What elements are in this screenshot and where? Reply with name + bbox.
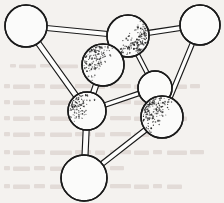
figure-container: Ball-and-stick structural model <box>0 0 224 203</box>
ball-and-stick-diagram <box>0 0 224 203</box>
atom-sphere-middle-left <box>82 44 124 86</box>
atom-sphere-lower-right <box>141 96 183 138</box>
bond-a5-a8 <box>82 127 89 158</box>
atom-sphere-bottom <box>61 155 107 201</box>
atom-sphere-lower-left <box>68 92 106 130</box>
atom-sphere-top-left <box>5 5 47 47</box>
atom-sphere-top-right <box>180 5 220 45</box>
